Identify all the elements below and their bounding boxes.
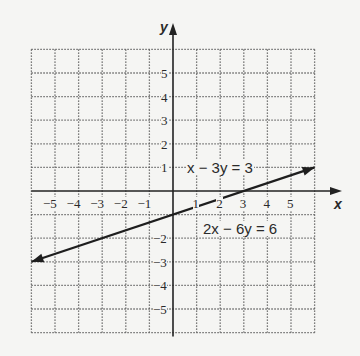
x-tick-label: −3: [90, 197, 104, 210]
x-axis-label: x: [334, 196, 342, 212]
y-tick-label: −4: [153, 279, 167, 292]
x-tick-label: −2: [114, 197, 128, 210]
x-tick-label: 4: [263, 197, 270, 210]
x-tick-label: 5: [287, 197, 294, 210]
line-arrow-icon: [302, 167, 315, 176]
line-arrow-icon: [31, 254, 44, 263]
y-tick-label: −3: [153, 256, 167, 269]
equation-label-1: x − 3y = 3: [186, 160, 254, 175]
equation-label-2: 2x − 6y = 6: [202, 221, 278, 236]
x-tick-label: 3: [240, 197, 247, 210]
y-tick-label: 5: [161, 67, 168, 80]
y-tick-label: −2: [153, 232, 167, 245]
y-tick-label: 1: [161, 161, 168, 174]
y-tick-label: 2: [161, 138, 168, 151]
x-tick-label: −4: [67, 197, 81, 210]
x-tick-label: −1: [137, 197, 151, 210]
x-tick-label: 1: [193, 197, 200, 210]
x-tick-label: 2: [216, 197, 223, 210]
y-tick-label: −5: [153, 303, 167, 316]
y-axis-label: y: [160, 19, 168, 35]
coordinate-plane: [0, 0, 360, 356]
x-tick-label: −5: [43, 197, 57, 210]
y-tick-label: 4: [161, 91, 168, 104]
x-axis-arrow-icon: [330, 187, 342, 195]
y-tick-label: 3: [161, 114, 168, 127]
y-axis-arrow-icon: [169, 23, 177, 35]
